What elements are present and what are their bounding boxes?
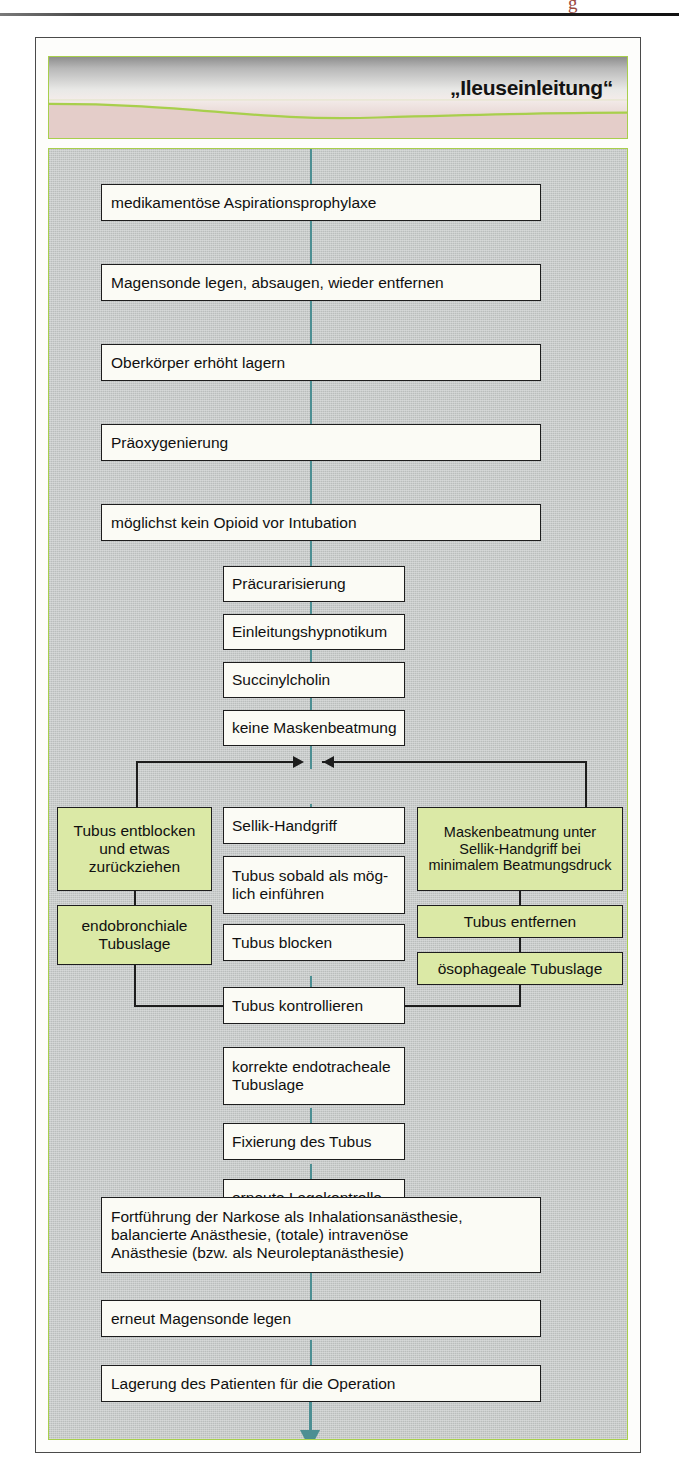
step-label: Oberkörper erhöht lagern <box>111 354 285 372</box>
connector-spine-5 <box>310 461 312 505</box>
connector-spine-4 <box>310 381 312 425</box>
step-node[interactable]: Einleitungshypnotikum <box>223 614 405 650</box>
connector-spine-1 <box>310 149 312 184</box>
connector-spine-10 <box>310 745 312 769</box>
step-node[interactable]: Präcurarisierung <box>223 566 405 602</box>
step-node[interactable]: Succinylcholin <box>223 662 405 698</box>
step-label-line2: Tubuslage <box>232 1076 304 1094</box>
branch-left-node-2[interactable]: endobronchiale Tubuslage <box>57 905 212 965</box>
branch-right-node-1[interactable]: Maskenbeatmung unter Sellik-Handgriff be… <box>417 807 623 891</box>
page-header-glyph-remnant: g <box>568 0 594 13</box>
branch-left-return-vertical <box>134 965 136 1007</box>
branch-feeder-right-horizontal <box>322 761 587 763</box>
branch-left-node-1-line2: und etwas <box>99 840 170 858</box>
branch-right-node-1-line2: Sellik-Handgriff bei <box>459 841 580 858</box>
branch-left-connector-1 <box>134 891 136 905</box>
branch-center-node-2[interactable]: Tubus sobald als mög- lich einführen <box>223 856 405 914</box>
branch-right-node-2-label: Tubus entfernen <box>464 913 576 931</box>
flow-end-arrow-shaft <box>309 1402 312 1432</box>
branch-center-node-1[interactable]: Sellik-Handgriff <box>223 807 405 844</box>
step-label: keine Maskenbeatmung <box>232 719 397 737</box>
step-label: Lagerung des Patienten für die Operation <box>111 1375 395 1393</box>
branch-right-node-3[interactable]: ösophageale Tubuslage <box>417 952 623 985</box>
step-label: Fixierung des Tubus <box>232 1133 372 1151</box>
flowchart-panel: medikamentöse Aspirationsprophylaxe Mage… <box>48 148 628 1440</box>
step-label: Einleitungshypnotikum <box>232 623 387 641</box>
connector-spine-9 <box>310 697 312 711</box>
branch-center-node-2-line2: lich einführen <box>232 885 324 903</box>
step-label-line1: Fortführung der Narkose als Inhalationsa… <box>111 1208 463 1226</box>
step-label-line2: balancierte Anästhesie, (totale) intrave… <box>111 1226 408 1244</box>
branch-center-node-4[interactable]: Tubus kontrollieren <box>223 987 405 1024</box>
step-label: Succinylcholin <box>232 671 330 689</box>
connector-spine-2 <box>310 221 312 265</box>
branch-center-node-4-label: Tubus kontrollieren <box>232 997 363 1015</box>
step-label-line3: Anästhesie (bzw. als Neuroleptanästhesie… <box>111 1244 404 1262</box>
step-node[interactable]: erneut Magensonde legen <box>101 1300 541 1337</box>
step-node-continuation[interactable]: Fortführung der Narkose als Inhalationsa… <box>101 1197 541 1273</box>
arrow-head-right-icon <box>293 756 304 768</box>
step-label: möglichst kein Opioid vor Intubation <box>111 514 357 532</box>
page-header-rule <box>0 13 679 16</box>
connector-spine-19 <box>310 1340 312 1368</box>
step-node[interactable]: medikamentöse Aspirationsprophylaxe <box>101 184 541 221</box>
branch-left-node-1-line3: zurückziehen <box>89 858 180 876</box>
connector-spine-6 <box>310 541 312 567</box>
branch-center-node-1-label: Sellik-Handgriff <box>232 817 337 835</box>
step-node[interactable]: Magensonde legen, absaugen, wieder entfe… <box>101 264 541 301</box>
branch-left-node-2-line1: endobronchiale <box>81 917 187 935</box>
step-label: medikamentöse Aspirationsprophylaxe <box>111 194 376 212</box>
step-node[interactable]: Lagerung des Patienten für die Operation <box>101 1365 541 1402</box>
step-node[interactable]: Fixierung des Tubus <box>223 1123 405 1160</box>
branch-right-return-horizontal <box>403 1005 521 1007</box>
step-node[interactable]: keine Maskenbeatmung <box>223 710 405 746</box>
title-banner: „Ileuseinleitung“ <box>48 56 628 139</box>
connector-spine-7 <box>310 601 312 615</box>
branch-right-node-3-label: ösophageale Tubuslage <box>438 960 603 978</box>
branch-left-node-1[interactable]: Tubus entblocken und etwas zurückziehen <box>57 807 212 891</box>
branch-right-connector-2 <box>519 938 521 952</box>
flow-end-arrow-icon <box>300 1402 321 1440</box>
branch-left-return-horizontal <box>134 1005 226 1007</box>
step-node[interactable]: Oberkörper erhöht lagern <box>101 344 541 381</box>
branch-feeder-left-vertical <box>136 761 138 807</box>
connector-spine-3 <box>310 301 312 345</box>
step-label: erneut Magensonde legen <box>111 1310 291 1328</box>
branch-center-node-3-label: Tubus blocken <box>232 934 332 952</box>
step-label: Präcurarisierung <box>232 575 346 593</box>
step-label-line1: korrekte endotracheale <box>232 1058 391 1076</box>
branch-center-node-2-line1: Tubus sobald als mög- <box>232 867 388 885</box>
branch-feeder-left-horizontal <box>136 761 300 763</box>
step-node[interactable]: möglichst kein Opioid vor Intubation <box>101 504 541 541</box>
step-label: Magensonde legen, absaugen, wieder entfe… <box>111 274 444 292</box>
branch-right-connector-1 <box>519 891 521 905</box>
branch-center-node-3[interactable]: Tubus blocken <box>223 924 405 961</box>
step-node[interactable]: Präoxygenierung <box>101 424 541 461</box>
branch-left-node-1-line1: Tubus entblocken <box>74 822 196 840</box>
branch-right-node-1-line1: Maskenbeatmung unter <box>444 824 596 841</box>
branch-left-node-2-line2: Tubuslage <box>99 935 171 953</box>
arrow-head-left-icon <box>323 756 334 768</box>
branch-right-node-1-line3: minimalem Beatmungsdruck <box>429 857 612 874</box>
connector-spine-18 <box>310 1272 312 1300</box>
figure-title: „Ileuseinleitung“ <box>450 76 613 100</box>
flow-end-arrow-head <box>300 1430 320 1440</box>
step-node[interactable]: korrekte endotracheale Tubuslage <box>223 1047 405 1105</box>
connector-spine-8 <box>310 649 312 663</box>
step-label: Präoxygenierung <box>111 434 228 452</box>
branch-right-node-2[interactable]: Tubus entfernen <box>417 905 623 938</box>
branch-feeder-right-vertical <box>585 761 587 807</box>
branch-right-return-vertical <box>519 985 521 1007</box>
